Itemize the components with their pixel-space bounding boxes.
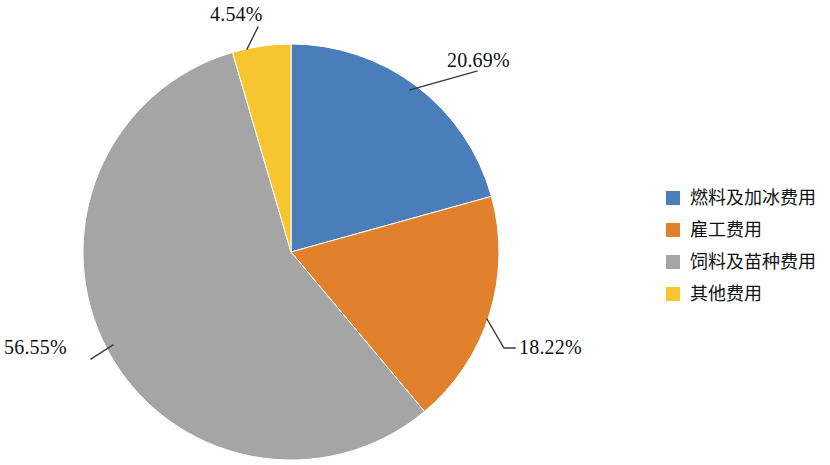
data-label-fuel-ice-pct: 20.69% — [447, 50, 510, 70]
legend-item-labor[interactable]: 雇工费用 — [666, 214, 830, 246]
legend-item-other[interactable]: 其他费用 — [666, 278, 830, 310]
leader-line-other — [247, 27, 258, 49]
chart-legend: 燃料及加冰费用 雇工费用 饲料及苗种费用 其他费用 — [666, 182, 830, 310]
data-label-feed-seed-pct: 56.55% — [4, 337, 67, 357]
leader-line-fuel-ice — [410, 71, 477, 90]
legend-label-feed-seed: 饲料及苗种费用 — [690, 253, 816, 271]
legend-swatch-icon-other — [666, 287, 680, 301]
legend-swatch-icon-labor — [666, 223, 680, 237]
leader-line-labor — [487, 319, 515, 348]
legend-swatch-icon-feed-seed — [666, 255, 680, 269]
legend-item-feed-seed[interactable]: 饲料及苗种费用 — [666, 246, 830, 278]
legend-label-fuel-ice: 燃料及加冰费用 — [690, 189, 816, 207]
data-label-labor-pct: 18.22% — [519, 337, 582, 357]
pie-chart: 4.54% 20.69% 18.22% 56.55% 燃料及加冰费用 雇工费用 … — [0, 0, 830, 465]
pie-slices — [83, 44, 499, 460]
legend-label-other: 其他费用 — [690, 285, 762, 303]
legend-label-labor: 雇工费用 — [690, 221, 762, 239]
data-label-other-pct: 4.54% — [210, 4, 263, 24]
legend-item-fuel-ice[interactable]: 燃料及加冰费用 — [666, 182, 830, 214]
legend-swatch-icon-fuel-ice — [666, 191, 680, 205]
